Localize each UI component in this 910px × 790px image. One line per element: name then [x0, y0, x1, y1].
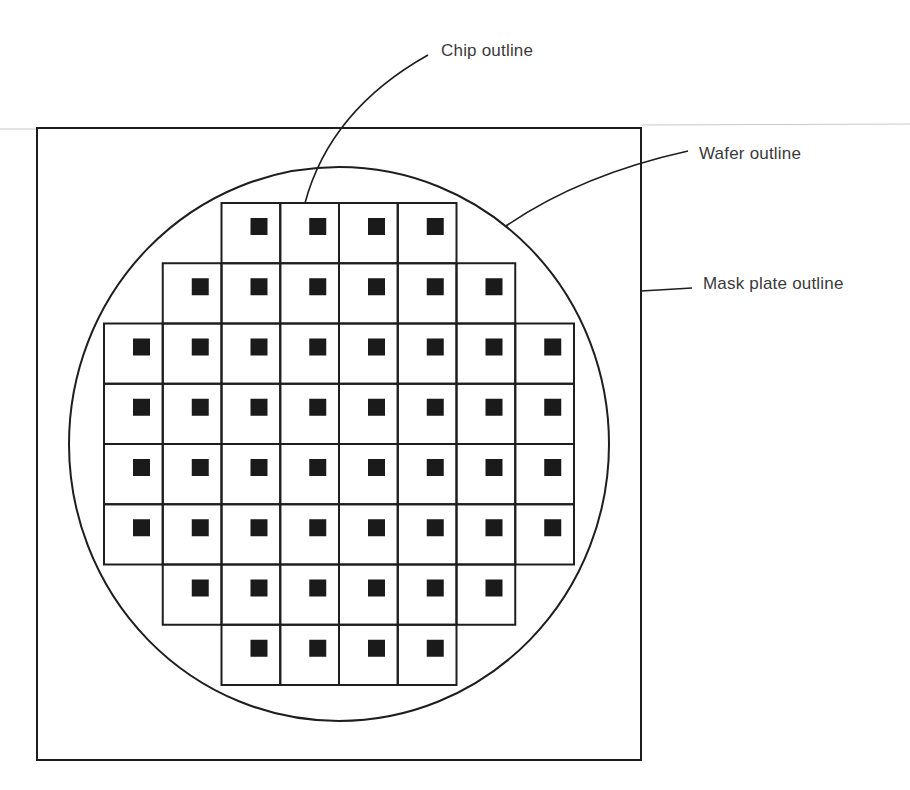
- chip-die-mark: [192, 278, 209, 295]
- mask-plate-diagram: [0, 0, 910, 790]
- chip-die-mark: [427, 519, 444, 536]
- chip-die-mark: [309, 278, 326, 295]
- chip-die-mark: [133, 519, 150, 536]
- chip-die-mark: [544, 399, 561, 416]
- chip-die-mark: [427, 218, 444, 235]
- chip-grid: [104, 203, 574, 685]
- chip-die-mark: [486, 580, 503, 597]
- chip-die-mark: [427, 640, 444, 657]
- chip-die-mark: [368, 640, 385, 657]
- chip-die-mark: [309, 519, 326, 536]
- wafer-leader-line: [506, 151, 688, 226]
- page-rule-right: [641, 124, 910, 125]
- chip-die-mark: [368, 218, 385, 235]
- chip-die-mark: [368, 519, 385, 536]
- chip-die-mark: [309, 399, 326, 416]
- chip-die-mark: [368, 459, 385, 476]
- mask-plate-outline-label: Mask plate outline: [703, 275, 844, 292]
- chip-die-mark: [192, 339, 209, 356]
- chip-die-mark: [427, 339, 444, 356]
- chip-die-mark: [486, 399, 503, 416]
- chip-die-mark: [251, 459, 268, 476]
- chip-die-mark: [427, 278, 444, 295]
- chip-die-mark: [486, 339, 503, 356]
- chip-die-mark: [427, 399, 444, 416]
- chip-die-mark: [544, 519, 561, 536]
- mask-leader-line: [641, 288, 692, 291]
- chip-die-mark: [309, 339, 326, 356]
- chip-die-mark: [251, 519, 268, 536]
- chip-die-mark: [368, 399, 385, 416]
- chip-die-mark: [544, 339, 561, 356]
- chip-die-mark: [251, 278, 268, 295]
- chip-outline-label: Chip outline: [441, 42, 533, 59]
- chip-die-mark: [192, 519, 209, 536]
- chip-die-mark: [251, 339, 268, 356]
- chip-die-mark: [251, 399, 268, 416]
- chip-die-mark: [192, 459, 209, 476]
- chip-die-mark: [251, 580, 268, 597]
- chip-die-mark: [251, 218, 268, 235]
- chip-die-mark: [486, 519, 503, 536]
- chip-die-mark: [368, 278, 385, 295]
- chip-die-mark: [309, 640, 326, 657]
- chip-die-mark: [427, 580, 444, 597]
- chip-die-mark: [427, 459, 444, 476]
- chip-die-mark: [192, 580, 209, 597]
- chip-die-mark: [309, 580, 326, 597]
- chip-die-mark: [133, 459, 150, 476]
- chip-die-mark: [544, 459, 561, 476]
- chip-die-mark: [309, 459, 326, 476]
- chip-die-mark: [133, 399, 150, 416]
- chip-die-mark: [486, 459, 503, 476]
- chip-die-mark: [309, 218, 326, 235]
- chip-die-mark: [192, 399, 209, 416]
- chip-die-mark: [486, 278, 503, 295]
- wafer-outline-label: Wafer outline: [699, 145, 801, 162]
- chip-die-mark: [368, 339, 385, 356]
- chip-die-mark: [133, 339, 150, 356]
- chip-die-mark: [251, 640, 268, 657]
- chip-die-mark: [368, 580, 385, 597]
